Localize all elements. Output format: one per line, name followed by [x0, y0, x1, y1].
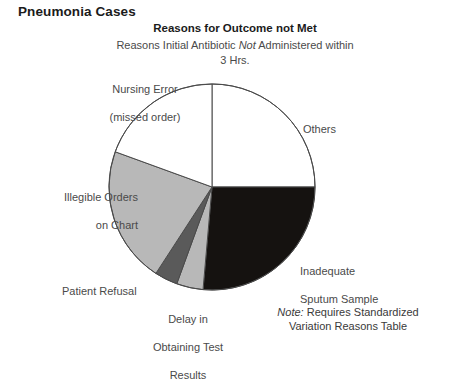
chart-subtitle: Reasons Initial Antibiotic Not Administe…	[0, 38, 452, 68]
page-title: Pneumonia Cases	[18, 4, 136, 19]
slice-label-delay-line3: Results	[170, 369, 207, 381]
chart-note: Note: Requires Standardized Variation Re…	[250, 305, 446, 333]
slice-label-inadequate-line1: Inadequate	[300, 265, 355, 277]
slice-label-delay-obtaining-test-results: Delay in Obtaining Test Results	[128, 298, 248, 382]
chart-subtitle-line2: 3 Hrs.	[220, 54, 249, 66]
chart-note-line1: Requires Standardized	[304, 306, 419, 318]
slice-label-inadequate-line2: Sputum Sample	[300, 293, 378, 305]
chart-subtitle-part2: Administered within	[256, 39, 354, 51]
slice-label-delay-line1: Delay in	[168, 313, 208, 325]
slice-label-nursing-error: Nursing Error (missed order)	[85, 68, 205, 124]
slice-label-others: Others	[303, 108, 383, 136]
chart-subtitle-part1: Reasons Initial Antibiotic	[116, 39, 238, 51]
slice-label-delay-line2: Obtaining Test	[153, 341, 223, 353]
slice-label-nursing-error-line2: (missed order)	[110, 111, 181, 123]
pie-slice	[203, 187, 315, 290]
slice-label-illegible-orders-line2: on Chart	[96, 219, 138, 231]
slice-label-patient-refusal: Patient Refusal	[62, 270, 182, 298]
chart-title: Reasons for Outcome not Met	[0, 22, 452, 34]
slice-label-patient-refusal-line1: Patient Refusal	[62, 285, 137, 297]
slice-label-others-line1: Others	[303, 123, 336, 135]
chart-note-line2: Variation Reasons Table	[289, 320, 407, 332]
pie-slice	[212, 84, 315, 187]
slice-label-illegible-orders-line1: Illegible Orders	[64, 191, 138, 203]
chart-note-label: Note:	[277, 306, 303, 318]
chart-subtitle-emphasis: Not	[239, 39, 256, 51]
slice-label-nursing-error-line1: Nursing Error	[112, 83, 177, 95]
slice-label-illegible-orders: Illegible Orders on Chart	[18, 176, 138, 232]
slice-label-inadequate-sputum-sample: Inadequate Sputum Sample	[300, 250, 430, 306]
